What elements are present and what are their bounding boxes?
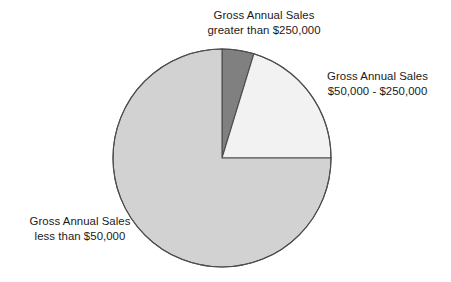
slice-label-line-2: greater than $250,000 [188, 23, 340, 38]
slice-label-greater-than-250k: Gross Annual Sales greater than $250,000 [188, 8, 340, 37]
slice-label-less-than-50k: Gross Annual Sales less than $50,000 [4, 214, 156, 243]
slice-label-line-1: Gross Annual Sales [4, 214, 156, 229]
slice-label-line-1: Gross Annual Sales [188, 8, 340, 23]
slice-label-line-2: less than $50,000 [4, 229, 156, 244]
slice-label-50k-to-250k: Gross Annual Sales $50,000 - $250,000 [306, 69, 449, 98]
pie-chart-screenshot: Gross Annual Sales greater than $250,000… [0, 0, 451, 282]
pie-chart: Gross Annual Sales greater than $250,000… [0, 0, 451, 282]
slice-label-line-2: $50,000 - $250,000 [306, 84, 449, 99]
slice-label-line-1: Gross Annual Sales [306, 69, 449, 84]
